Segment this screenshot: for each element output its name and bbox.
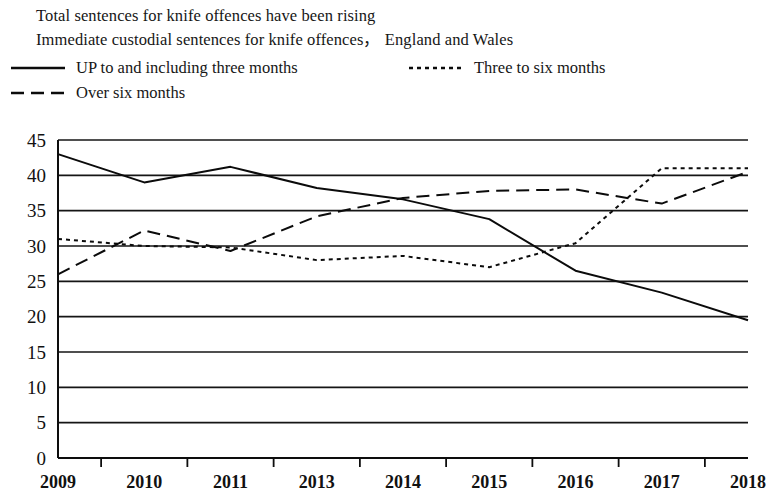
legend-item-up-to-three-months: UP to and including three months (10, 58, 298, 78)
x-axis-tick-labels: 200920102011201320142015201620172018 (40, 472, 766, 489)
legend-label-three-to-six-months: Three to six months (474, 58, 606, 78)
x-tick-label: 2018 (730, 472, 766, 489)
x-tick-label: 2017 (644, 472, 680, 489)
solid-line-key (10, 61, 66, 75)
y-tick-label: 25 (27, 271, 46, 292)
y-tick-label: 15 (27, 342, 46, 363)
series-line (58, 154, 748, 320)
y-tick-label: 10 (27, 377, 46, 398)
dashed-line-key (10, 86, 66, 100)
y-tick-label: 40 (27, 165, 46, 186)
chart-title: Total sentences for knife offences have … (36, 4, 736, 28)
data-series-lines (58, 154, 748, 320)
chart-legend: UP to and including three months Three t… (10, 58, 750, 108)
y-tick-label: 30 (27, 236, 46, 257)
dotted-line-key (408, 61, 464, 75)
legend-label-up-to-three-months: UP to and including three months (76, 58, 298, 78)
line-chart-svg: 051015202530354045 200920102011201320142… (0, 118, 766, 489)
x-tick-label: 2010 (126, 472, 162, 489)
series-line (58, 172, 748, 274)
chart-figure: Total sentences for knife offences have … (0, 0, 766, 489)
series-line (58, 168, 748, 267)
y-tick-label: 35 (27, 200, 46, 221)
y-tick-label: 0 (37, 448, 47, 469)
legend-row-1: UP to and including three months Three t… (10, 58, 750, 83)
legend-item-three-to-six-months: Three to six months (408, 58, 606, 78)
x-tick-label: 2013 (299, 472, 335, 489)
y-tick-label: 20 (27, 306, 46, 327)
x-tick-label: 2016 (558, 472, 594, 489)
legend-row-2: Over six months (10, 83, 750, 108)
x-axis-tick-marks (101, 458, 705, 467)
x-tick-label: 2011 (213, 472, 248, 489)
chart-titles: Total sentences for knife offences have … (36, 4, 736, 52)
gridlines (58, 140, 748, 458)
chart-subtitle: Immediate custodial sentences for knife … (36, 28, 736, 52)
plot-area: 051015202530354045 200920102011201320142… (0, 118, 766, 489)
x-tick-label: 2009 (40, 472, 76, 489)
y-axis-tick-labels: 051015202530354045 (27, 130, 46, 469)
legend-item-over-six-months: Over six months (10, 83, 185, 103)
x-tick-label: 2014 (385, 472, 421, 489)
x-tick-label: 2015 (471, 472, 507, 489)
legend-label-over-six-months: Over six months (76, 83, 185, 103)
y-tick-label: 45 (27, 130, 46, 151)
y-tick-label: 5 (37, 412, 47, 433)
